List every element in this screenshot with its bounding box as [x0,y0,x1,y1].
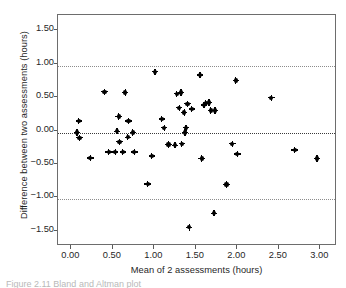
plot-area [57,14,336,245]
x-tick-mark [195,245,196,249]
x-tick-label: 1.00 [131,250,175,260]
scatter-point [107,150,111,154]
figure-caption: Figure 2.11 Bland and Altman plot [6,279,340,288]
y-tick-label: 1.00 [14,57,54,67]
scatter-point [183,130,187,134]
scatter-point [200,156,204,160]
y-tick-label: −1.50 [14,224,54,234]
scatter-point [126,119,130,123]
scatter-point [234,78,238,82]
y-tick-label: 0.50 [14,90,54,100]
scatter-point [123,90,127,94]
scatter-point [293,148,297,152]
x-tick-label: 2.00 [214,250,258,260]
scatter-point [102,90,106,94]
x-tick-label: 1.50 [173,250,217,260]
scatter-point [77,136,81,140]
scatter-point [235,152,239,156]
scatter-point [173,143,177,147]
scatter-point [162,126,166,130]
scatter-point [150,154,154,158]
y-tick-label: −1.00 [14,190,54,200]
scatter-point [126,135,130,139]
x-tick-label: 0.50 [90,250,134,260]
scatter-point [77,119,81,123]
x-tick-mark [153,245,154,249]
scatter-point [131,130,135,134]
upper-limit-of-agreement-line [58,66,335,67]
scatter-point [88,156,92,160]
y-tick-label: 0.00 [14,124,54,134]
scatter-point [180,142,184,146]
x-tick-mark [319,245,320,249]
scatter-point [117,140,121,144]
scatter-point [315,156,319,160]
scatter-point [212,211,216,215]
x-axis-title: Mean of 2 assessments (hours) [57,265,336,275]
scatter-point [185,102,189,106]
x-tick-mark [278,245,279,249]
scatter-point [269,96,273,100]
scatter-point [190,107,194,111]
scatter-point [230,142,234,146]
x-tick-mark [236,245,237,249]
scatter-point [182,110,186,114]
bland-altman-figure: Difference between two assessments (hour… [0,0,346,288]
x-tick-mark [70,245,71,249]
x-tick-mark [112,245,113,249]
scatter-point [117,114,121,118]
y-tick-label: 1.50 [14,23,54,33]
scatter-point [153,70,157,74]
y-tick-label: −0.50 [14,157,54,167]
lower-limit-of-agreement-line [58,199,335,200]
scatter-point [160,117,164,121]
scatter-point [207,100,211,104]
scatter-point [224,182,228,186]
scatter-point [146,182,150,186]
x-tick-label: 2.50 [256,250,300,260]
mean-difference-line [58,133,335,134]
scatter-point [166,142,170,146]
scatter-point [213,108,217,112]
scatter-point [113,150,117,154]
scatter-point [179,90,183,94]
x-tick-label: 0.00 [48,250,92,260]
scatter-point [187,225,191,229]
scatter-point [121,150,125,154]
scatter-point [184,126,188,130]
x-tick-label: 3.00 [297,250,341,260]
scatter-point [198,73,202,77]
scatter-point [177,106,181,110]
scatter-point [132,150,136,154]
